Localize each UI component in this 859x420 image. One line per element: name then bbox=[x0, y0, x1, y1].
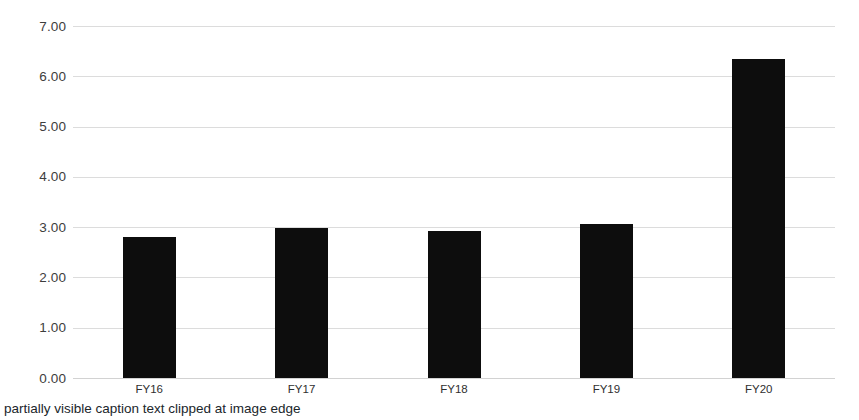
chart-screenshot: 0.001.002.003.004.005.006.007.00 FY16FY1… bbox=[0, 0, 859, 420]
y-axis-tick-label: 3.00 bbox=[8, 221, 66, 235]
y-axis-tick-label: 5.00 bbox=[8, 120, 66, 134]
y-axis-tick-label: 7.00 bbox=[8, 20, 66, 34]
y-axis-tick-label: 0.00 bbox=[8, 372, 66, 386]
caption-strip: partially visible caption text clipped a… bbox=[0, 402, 859, 420]
y-axis-tick-label: 2.00 bbox=[8, 271, 66, 285]
figure-caption: partially visible caption text clipped a… bbox=[4, 402, 856, 419]
y-axis-tick-label: 1.00 bbox=[8, 321, 66, 335]
y-axis-tick-labels: 0.001.002.003.004.005.006.007.00 bbox=[0, 26, 66, 378]
x-axis-tick-label: FY18 bbox=[378, 384, 530, 396]
x-axis-tick-label: FY17 bbox=[225, 384, 377, 396]
y-axis-tick-label: 6.00 bbox=[8, 70, 66, 84]
x-axis-tick-label: FY20 bbox=[683, 384, 835, 396]
x-axis-tick-label: FY16 bbox=[73, 384, 225, 396]
x-axis-tick-labels: FY16FY17FY18FY19FY20 bbox=[73, 0, 835, 402]
bar-chart-figure: 0.001.002.003.004.005.006.007.00 FY16FY1… bbox=[0, 0, 859, 402]
y-axis-tick-label: 4.00 bbox=[8, 170, 66, 184]
x-axis-tick-label: FY19 bbox=[530, 384, 682, 396]
